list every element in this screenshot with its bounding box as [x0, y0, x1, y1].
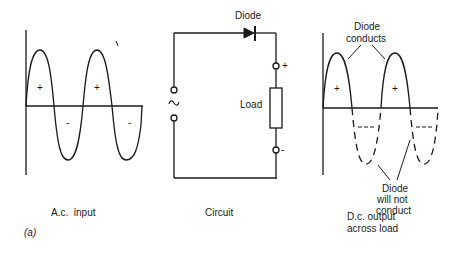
stray-mark	[116, 41, 118, 46]
conducts-label-line2: conducts	[346, 33, 386, 44]
dc-output-caption-line2: across load	[347, 223, 398, 234]
load-resistor	[270, 88, 282, 128]
figure-label: (a)	[24, 227, 36, 238]
not-conduct-leader-2	[397, 140, 410, 180]
diode-icon	[244, 26, 255, 41]
dc-positive-hump-2	[381, 53, 410, 108]
dc-output-panel	[323, 33, 438, 180]
dc-plus-2: +	[392, 83, 398, 94]
minus-terminal-label: -	[281, 144, 284, 155]
dc-plus-1: +	[334, 83, 340, 94]
not-conduct-label-line1: Diode	[382, 183, 409, 194]
ac-plus-1: +	[37, 82, 43, 93]
conducts-label-line1: Diode	[354, 21, 381, 32]
dc-positive-hump-1	[323, 53, 352, 108]
dc-output-caption-line1: D.c. output	[347, 211, 396, 222]
ac-sine-wave	[26, 50, 142, 160]
diode-label: Diode	[235, 10, 262, 21]
circuit-caption: Circuit	[205, 207, 234, 218]
source-terminal-bottom	[171, 115, 177, 121]
half-wave-rectifier-figure: + + - - A.c. input (a) Diode Load + - Ci…	[0, 0, 455, 253]
not-conduct-leader-1	[378, 165, 390, 180]
ac-source-icon	[169, 101, 179, 105]
not-conduct-label-line2: will not	[376, 194, 408, 205]
ac-input-caption: A.c. input	[51, 207, 96, 218]
ac-minus-2: -	[128, 117, 131, 128]
plus-terminal-label: +	[282, 60, 288, 71]
conducts-leader-1	[348, 45, 361, 59]
ac-plus-2: +	[94, 82, 100, 93]
ac-input-panel	[26, 30, 143, 175]
dc-blocked-half-1	[352, 108, 381, 164]
ac-minus-1: -	[66, 117, 69, 128]
load-terminal-minus	[273, 147, 279, 153]
load-terminal-plus	[273, 63, 279, 69]
conducts-leader-2	[372, 45, 385, 59]
dc-blocked-half-2	[410, 108, 438, 164]
load-label: Load	[240, 99, 262, 110]
circuit-panel	[169, 33, 282, 178]
source-terminal-top	[171, 87, 177, 93]
